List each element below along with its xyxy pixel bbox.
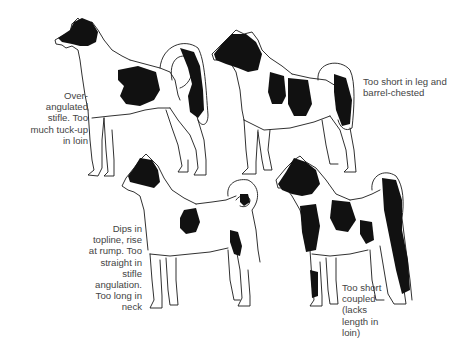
dog-top-right-markings bbox=[214, 34, 352, 126]
caption-line: stifle. Too bbox=[20, 112, 88, 123]
dog-bottom-right-markings bbox=[278, 158, 410, 298]
caption-bottom-right: Too short coupled (lacks length in loin) bbox=[342, 282, 402, 338]
caption-line: loin) bbox=[342, 327, 402, 338]
caption-line: angulation. bbox=[56, 279, 142, 290]
caption-line: Too long in bbox=[56, 290, 142, 301]
caption-line: in loin bbox=[20, 135, 88, 146]
dog-bottom-left-markings bbox=[128, 158, 250, 256]
caption-top-left: Over- angulated stifle. Too much tuck-up… bbox=[20, 90, 88, 146]
caption-line: angulated bbox=[20, 101, 88, 112]
caption-line: Over- bbox=[20, 90, 88, 101]
caption-line: length in bbox=[342, 316, 402, 327]
caption-line: (lacks bbox=[342, 304, 402, 315]
caption-line: barrel-chested bbox=[363, 87, 463, 98]
caption-line: Too short bbox=[342, 282, 402, 293]
caption-line: straight in bbox=[56, 257, 142, 268]
caption-top-right: Too short in leg and barrel-chested bbox=[363, 76, 463, 98]
caption-line: much tuck-up bbox=[20, 124, 88, 135]
caption-line: at rump. Too bbox=[56, 245, 142, 256]
caption-line: stifle bbox=[56, 268, 142, 279]
caption-bottom-left: Dips in topline, rise at rump. Too strai… bbox=[56, 223, 142, 313]
caption-line: Too short in leg and bbox=[363, 76, 463, 87]
caption-line: neck bbox=[56, 301, 142, 312]
caption-line: topline, rise bbox=[56, 234, 142, 245]
caption-line: Dips in bbox=[56, 223, 142, 234]
caption-line: coupled bbox=[342, 293, 402, 304]
